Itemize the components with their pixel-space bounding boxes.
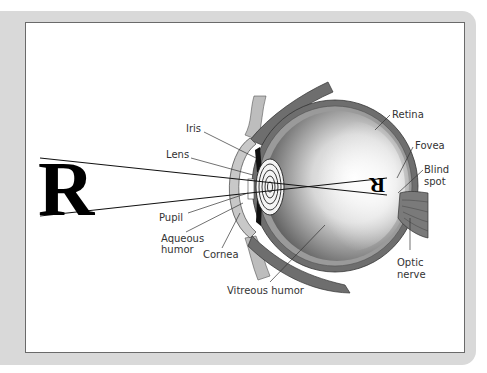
label-optic-2: nerve <box>397 269 426 280</box>
object-letter-r: R <box>38 145 96 232</box>
label-blind-2: spot <box>424 176 446 187</box>
image-letter-r: R <box>368 173 385 198</box>
label-pupil: Pupil <box>159 212 183 223</box>
label-blind-1: Blind <box>424 164 449 175</box>
label-fovea: Fovea <box>415 140 445 151</box>
label-aqueous-1: Aqueous <box>161 233 204 244</box>
label-cornea: Cornea <box>203 249 239 260</box>
label-retina: Retina <box>392 109 424 120</box>
label-iris: Iris <box>186 123 201 134</box>
eye-diagram: R R Iris Lens Pupil Aqueous humor Cornea… <box>0 0 487 373</box>
label-aqueous-2: humor <box>161 244 195 255</box>
label-vitreous-humor: Vitreous humor <box>227 285 305 296</box>
lens <box>256 159 284 215</box>
pupil <box>248 179 254 199</box>
label-lens: Lens <box>166 149 189 160</box>
label-optic-1: Optic <box>397 257 423 268</box>
